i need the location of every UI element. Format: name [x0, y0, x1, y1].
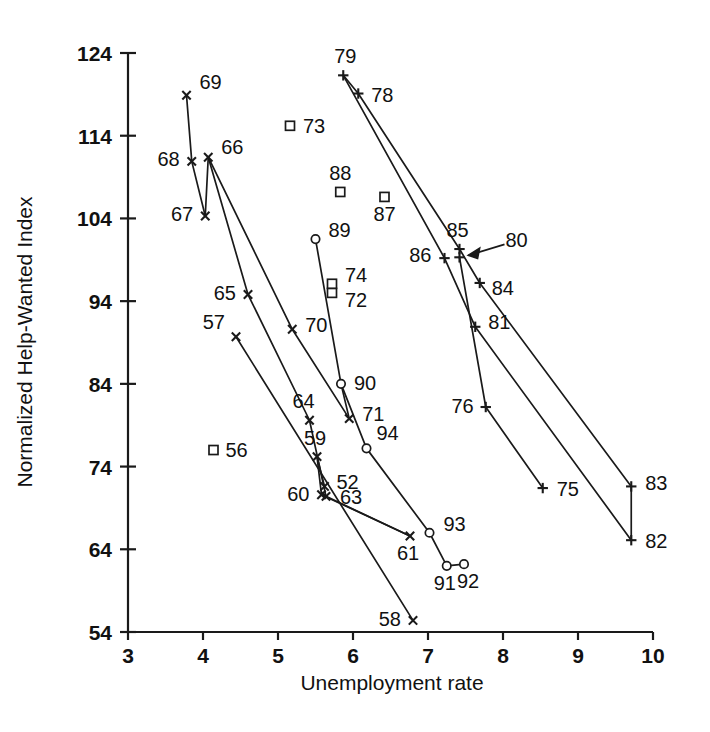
y-tick-label: 54 — [89, 621, 113, 644]
connector-line — [486, 407, 543, 488]
open-circle-icon — [425, 529, 433, 537]
marker-92 — [460, 560, 468, 568]
annotation-arrowhead-80 — [469, 248, 480, 258]
point-label-90: 90 — [354, 372, 376, 394]
marker-61 — [406, 532, 414, 540]
y-tick-label: 124 — [77, 42, 112, 65]
open-circle-icon — [311, 235, 319, 243]
open-square-icon — [336, 187, 345, 196]
point-label-63: 63 — [340, 486, 362, 508]
marker-87 — [380, 192, 389, 201]
x-axis-title: Unemployment rate — [300, 671, 483, 694]
point-label-71: 71 — [362, 403, 384, 425]
point-label-64: 64 — [292, 390, 314, 412]
x-tick-label: 9 — [572, 644, 584, 667]
point-label-69: 69 — [200, 71, 222, 93]
connector-line — [430, 533, 447, 566]
point-label-58: 58 — [379, 608, 401, 630]
point-label-61: 61 — [397, 542, 419, 564]
x-tick-label: 4 — [197, 644, 209, 667]
point-label-76: 76 — [452, 395, 474, 417]
connector-line — [205, 157, 208, 216]
open-circle-icon — [337, 380, 345, 388]
point-label-88: 88 — [329, 162, 351, 184]
marker-94 — [362, 444, 370, 452]
point-label-75: 75 — [557, 478, 579, 500]
point-label-87: 87 — [373, 203, 395, 225]
marker-88 — [336, 187, 345, 196]
x-tick-label: 5 — [272, 644, 284, 667]
marker-90 — [337, 380, 345, 388]
point-label-85: 85 — [446, 219, 468, 241]
y-tick-label: 94 — [89, 290, 113, 313]
point-label-73: 73 — [303, 115, 325, 137]
marker-93 — [425, 529, 433, 537]
connector-line — [316, 239, 342, 384]
open-circle-icon — [443, 562, 451, 570]
axes: 3456789105464748494104114124 — [77, 42, 665, 667]
open-square-icon — [209, 446, 218, 455]
connector-line — [192, 161, 206, 216]
point-label-84: 84 — [492, 277, 514, 299]
marker-86 — [439, 253, 449, 263]
marker-74 — [328, 279, 337, 288]
y-tick-label: 114 — [78, 125, 112, 148]
marker-72 — [328, 288, 337, 297]
marker-85 — [454, 244, 464, 254]
point-label-57: 57 — [203, 311, 225, 333]
point-label-59: 59 — [304, 427, 326, 449]
point-label-65: 65 — [214, 282, 236, 304]
y-tick-label: 104 — [77, 207, 112, 230]
point-label-78: 78 — [371, 84, 393, 106]
point-label-79: 79 — [334, 45, 356, 67]
y-tick-label: 64 — [89, 538, 113, 561]
x-tick-label: 7 — [422, 644, 434, 667]
open-square-icon — [380, 192, 389, 201]
point-label-92: 92 — [457, 570, 479, 592]
point-label-68: 68 — [158, 148, 180, 170]
connector-line — [343, 75, 444, 258]
point-label-91: 91 — [434, 572, 456, 594]
marker-58 — [409, 616, 417, 624]
point-label-86: 86 — [409, 244, 431, 266]
point-label-89: 89 — [329, 219, 351, 241]
marker-73 — [286, 121, 295, 130]
marker-57 — [232, 333, 240, 341]
connector-line — [187, 95, 192, 161]
point-label-94: 94 — [377, 422, 399, 444]
marker-56 — [209, 446, 218, 455]
open-circle-icon — [460, 560, 468, 568]
marker-89 — [311, 235, 319, 243]
chart-canvas: 3456789105464748494104114124 52565758596… — [0, 0, 710, 732]
point-label-81: 81 — [488, 311, 510, 333]
x-tick-label: 6 — [347, 644, 359, 667]
scatter-chart: 3456789105464748494104114124 52565758596… — [0, 0, 710, 732]
open-square-icon — [328, 288, 337, 297]
connector-line — [475, 327, 631, 540]
point-label-80: 80 — [506, 229, 528, 251]
point-label-70: 70 — [305, 314, 327, 336]
point-label-82: 82 — [645, 530, 667, 552]
open-circle-icon — [362, 444, 370, 452]
x-tick-label: 10 — [641, 644, 664, 667]
y-tick-label: 74 — [89, 456, 113, 479]
marker-75 — [538, 483, 548, 493]
connector-line — [460, 257, 486, 407]
marker-91 — [443, 562, 451, 570]
point-label-66: 66 — [221, 136, 243, 158]
y-tick-label: 84 — [89, 373, 113, 396]
point-label-56: 56 — [226, 439, 248, 461]
x-tick-label: 8 — [497, 644, 509, 667]
point-label-72: 72 — [345, 289, 367, 311]
point-label-74: 74 — [345, 264, 367, 286]
annotations — [469, 244, 505, 258]
point-label-93: 93 — [444, 513, 466, 535]
marker-76 — [481, 402, 491, 412]
connector-line — [358, 94, 459, 250]
marker-70 — [288, 325, 296, 333]
open-square-icon — [328, 279, 337, 288]
point-label-83: 83 — [645, 472, 667, 494]
point-label-60: 60 — [287, 483, 309, 505]
point-label-67: 67 — [171, 203, 193, 225]
y-axis-title: Normalized Help-Wanted Index — [13, 196, 36, 488]
